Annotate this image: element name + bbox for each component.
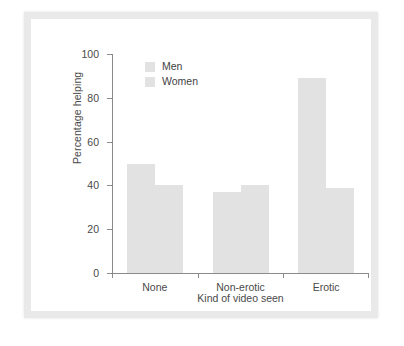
x-axis-tick [198, 273, 199, 278]
y-axis-tick-label: 20 [87, 224, 99, 235]
figure-frame: Men Women Percentage helping 02040608010… [24, 12, 378, 318]
x-axis-tick [368, 273, 369, 278]
figure-canvas: Men Women Percentage helping 02040608010… [31, 19, 371, 311]
y-axis-tick: 40 [107, 185, 112, 186]
bar-women-erotic [326, 188, 354, 273]
y-axis-tick: 100 [107, 54, 112, 55]
y-axis-tick: 80 [107, 98, 112, 99]
y-axis-tick-label: 100 [81, 49, 99, 60]
y-axis-line [112, 54, 113, 273]
x-axis-tick [283, 273, 284, 278]
y-axis-tick-label: 60 [87, 136, 99, 147]
y-axis-tick: 60 [107, 142, 112, 143]
bar-women-non-erotic [241, 185, 269, 273]
x-axis-label-none: None [142, 282, 167, 293]
y-axis-tick-label: 40 [87, 180, 99, 191]
y-axis-tick-label: 80 [87, 93, 99, 104]
x-axis-label-erotic: Erotic [313, 282, 340, 293]
x-axis-tick [112, 273, 113, 278]
y-axis-tick-label: 0 [93, 268, 99, 279]
x-axis-line [112, 273, 369, 274]
y-axis-tick: 20 [107, 229, 112, 230]
bar-men-none [127, 164, 155, 274]
bar-men-erotic [298, 78, 326, 273]
plot-area: 020406080100 NoneNon-eroticErotic [112, 54, 369, 273]
x-axis-label-non-erotic: Non-erotic [216, 282, 264, 293]
bar-men-non-erotic [213, 192, 241, 273]
bar-women-none [155, 185, 183, 273]
y-axis-title: Percentage helping [71, 72, 83, 164]
x-axis-title: Kind of video seen [112, 292, 369, 304]
